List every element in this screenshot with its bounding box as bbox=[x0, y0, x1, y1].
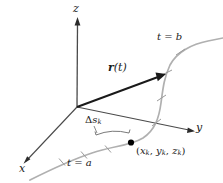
z-axis-arrowhead bbox=[75, 17, 81, 26]
sample-point-marker bbox=[128, 139, 134, 145]
z-axis-label: z bbox=[73, 3, 79, 14]
figure-canvas: z x y r(t) t = b t = a Δsk (xk, yk, zk) bbox=[0, 0, 223, 183]
t-end-eq: = bbox=[161, 31, 176, 42]
x-axis-line bbox=[28, 107, 77, 159]
t-end-label: t = b bbox=[157, 32, 182, 42]
y-axis-arrowhead bbox=[187, 128, 195, 133]
vector-argument: (t) bbox=[114, 61, 127, 74]
arc-length-bracket bbox=[96, 131, 129, 135]
arc-length-label: Δsk bbox=[85, 115, 102, 126]
sample-point-label: (xk, yk, zk) bbox=[136, 146, 185, 157]
position-vector-label: r(t) bbox=[108, 62, 127, 73]
sample-point-group bbox=[128, 139, 134, 145]
x-axis-label: x bbox=[19, 163, 25, 174]
t-start-eq: = bbox=[71, 157, 86, 168]
arc-bracket-right-tip bbox=[129, 130, 130, 134]
y-axis-label: y bbox=[196, 122, 202, 133]
t-start-label: t = a bbox=[67, 158, 92, 168]
position-vector-group bbox=[77, 73, 166, 107]
z-axis-line bbox=[77, 24, 78, 107]
arc-bracket-left-tip bbox=[95, 132, 96, 136]
space-curve-group bbox=[30, 38, 223, 180]
arc-length-bracket-group bbox=[94, 126, 130, 135]
paren-close: ) bbox=[182, 145, 186, 156]
position-vector-line bbox=[77, 77, 158, 107]
t-end-val: b bbox=[176, 31, 182, 42]
figure-svg bbox=[0, 0, 223, 183]
t-start-val: a bbox=[86, 157, 92, 168]
curve-tick bbox=[176, 49, 185, 55]
arc-subscript: k bbox=[97, 118, 101, 126]
